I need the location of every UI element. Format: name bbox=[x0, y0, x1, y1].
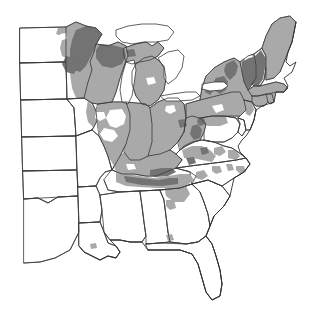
map-canvas: Eastern United States distribution map bbox=[0, 0, 315, 320]
range-maine-light bbox=[262, 16, 296, 80]
state-kansas bbox=[22, 136, 77, 171]
lake-superior bbox=[116, 24, 174, 44]
state-mississippi bbox=[100, 191, 146, 242]
state-florida bbox=[146, 236, 222, 300]
state-texas bbox=[24, 196, 79, 263]
distribution-map-figure: Eastern United States distribution map bbox=[0, 0, 315, 320]
state-nebraska bbox=[21, 99, 76, 137]
state-south-dakota bbox=[20, 62, 67, 100]
range-gulf-speck bbox=[90, 243, 97, 249]
